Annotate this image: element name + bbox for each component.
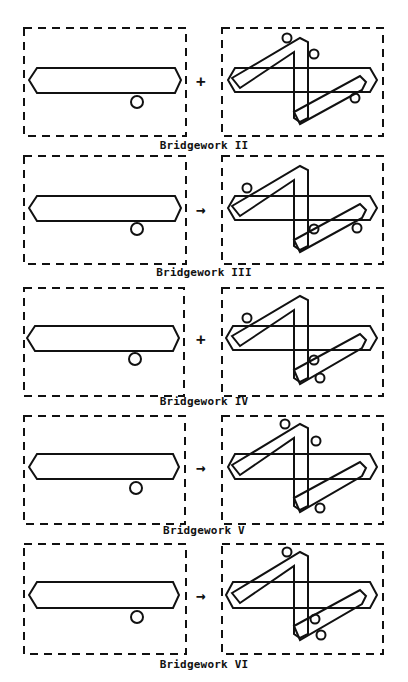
transform-arrow: → [196,458,206,477]
transform-arrow: → [196,586,206,605]
transform-arrow: → [196,200,206,219]
transform-arrow: + [196,330,206,349]
right-z-upper [232,38,308,122]
caption: Bridgework VI [0,658,408,671]
transform-arrow: + [196,72,206,91]
left-ring [131,96,143,108]
right-z-lower [294,76,366,124]
left-bar [29,68,181,93]
left-dashed-frame [24,28,186,136]
diagram-pair [0,0,408,140]
